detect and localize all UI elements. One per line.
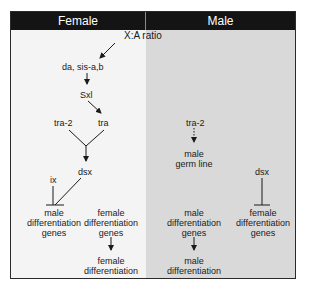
- line-3: genes: [80, 228, 142, 238]
- label-female-genes-female: female differentiation genes: [80, 208, 142, 238]
- line-1: male: [163, 208, 225, 218]
- line-1: female: [80, 208, 142, 218]
- line-2: differentiation: [80, 266, 142, 276]
- inhibit-dsx-male-genes: [55, 178, 81, 205]
- line-2: differentiation: [232, 218, 294, 228]
- line-tra2-merge: [69, 130, 86, 146]
- arrow-xa-to-da: [100, 43, 115, 58]
- label-male-genes-male: male differentiation genes: [163, 208, 225, 238]
- line-2: differentiation: [80, 218, 142, 228]
- line-1: male: [170, 149, 218, 159]
- label-tra2-female: tra-2: [54, 118, 73, 128]
- label-sxl: Sxl: [80, 90, 93, 100]
- line-2: differentiation: [163, 218, 225, 228]
- line-3: genes: [163, 228, 225, 238]
- label-da-sis: da, sis-a,b: [62, 62, 104, 72]
- label-germ-line: male germ line: [170, 149, 218, 169]
- line-3: genes: [232, 228, 294, 238]
- label-dsx-male: dsx: [255, 167, 269, 177]
- line-tra-merge: [86, 130, 104, 146]
- label-tra2-male: tra-2: [186, 118, 205, 128]
- pathway-arrows: [0, 0, 309, 289]
- line-1: female: [80, 256, 142, 266]
- label-male-differentiation: male differentiation: [163, 256, 225, 276]
- line-2: germ line: [170, 159, 218, 169]
- label-xa-ratio: X:A ratio: [124, 31, 162, 41]
- label-dsx-female: dsx: [78, 167, 92, 177]
- line-1: female: [232, 208, 294, 218]
- line-1: male: [163, 256, 225, 266]
- label-female-genes-male: female differentiation genes: [232, 208, 294, 238]
- label-female-differentiation: female differentiation: [80, 256, 142, 276]
- line-2: differentiation: [163, 266, 225, 276]
- arrow-sxl-to-tra: [88, 101, 101, 113]
- label-ix: ix: [50, 175, 57, 185]
- label-tra: tra: [98, 118, 109, 128]
